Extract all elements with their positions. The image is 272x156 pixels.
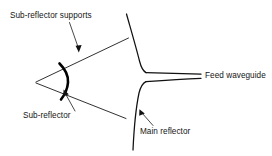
feed-waveguide-upper-line (146, 73, 201, 75)
main-reflector-upper-arc (127, 14, 147, 73)
sub-reflector-supports-shape (36, 38, 129, 119)
leader-sub-reflector-supports (70, 23, 82, 53)
label-main-reflector: Main reflector (140, 127, 190, 137)
label-sub-reflector: Sub-reflector (23, 111, 71, 121)
support-strut-upper (36, 38, 129, 82)
label-feed-waveguide: Feed waveguide (205, 71, 266, 81)
leader-line-sub-reflector-supports (70, 23, 79, 48)
arrowhead-sub-reflector-supports (76, 45, 82, 53)
label-sub-reflector-supports: Sub-reflector supports (10, 11, 92, 21)
antenna-diagram-figure: Sub-reflector supports Sub-reflector Mai… (0, 0, 272, 156)
leader-sub-reflector (63, 90, 75, 112)
feed-waveguide-shape (146, 73, 201, 82)
leader-line-main-reflector (142, 113, 153, 126)
leader-main-reflector (139, 109, 153, 125)
feed-waveguide-lower-line (146, 78, 201, 81)
